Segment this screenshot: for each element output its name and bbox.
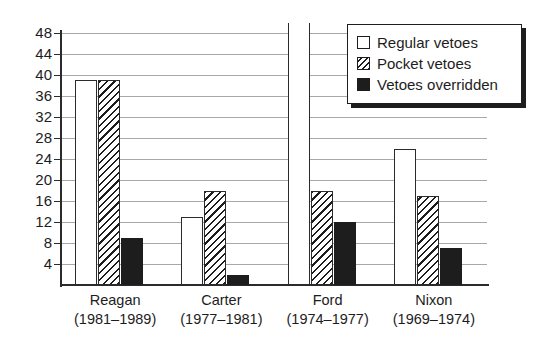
bar-regular-vetoes-carter [181,217,203,285]
x-axis-category-ford: Ford(1974–1977) [275,291,381,329]
gridline [62,180,487,181]
y-axis-tick [54,159,62,160]
legend-item-vetoes-overridden: Vetoes overridden [357,74,513,95]
bar-vetoes-overridden-reagan [121,238,143,285]
y-axis-tick-label: 48 [6,25,52,40]
legend-item-label: Regular vetoes [377,35,478,50]
y-axis-tick-label: 8 [6,235,52,250]
hatched-square-icon [357,57,370,70]
y-axis-tick-label: 36 [6,88,52,103]
y-axis-tick-label: 4 [6,256,52,271]
bar-regular-vetoes-nixon [394,149,416,286]
x-axis-category-carter: Carter(1977–1981) [168,291,274,329]
category-years: (1981–1989) [62,310,168,329]
y-axis-tick [54,96,62,97]
x-axis-category-reagan: Reagan(1981–1989) [62,291,168,329]
y-axis-tick [54,264,62,265]
bar-pocket-vetoes-nixon [417,196,439,285]
y-axis-tick [54,180,62,181]
bar-regular-vetoes-reagan [75,80,97,285]
gridline [62,117,487,118]
y-axis-tick [54,54,62,55]
y-axis-tick-label: 20 [6,172,52,187]
y-axis-tick-label: 32 [6,109,52,124]
bar-vetoes-overridden-ford [334,222,356,285]
legend-item-label: Vetoes overridden [377,77,498,92]
y-axis-tick [54,75,62,76]
category-years: (1977–1981) [168,310,274,329]
bar-vetoes-overridden-carter [227,275,249,286]
gridline [62,159,487,160]
legend-item-pocket-vetoes: Pocket vetoes [357,53,513,74]
category-name: Nixon [381,291,487,310]
y-axis-tick-label: 28 [6,130,52,145]
category-years: (1974–1977) [275,310,381,329]
category-years: (1969–1974) [381,310,487,329]
bar-pocket-vetoes-ford [311,191,333,286]
y-axis-tick [54,138,62,139]
y-axis-tick [54,243,62,244]
x-axis-category-nixon: Nixon(1969–1974) [381,291,487,329]
category-name: Ford [275,291,381,310]
y-axis-tick [54,222,62,223]
y-axis-tick-label: 40 [6,67,52,82]
y-axis-tick [54,117,62,118]
bar-pocket-vetoes-reagan [98,80,120,285]
y-axis-tick-label: 24 [6,151,52,166]
gridline [62,138,487,139]
legend-item-label: Pocket vetoes [377,56,471,71]
y-axis-tick-label: 12 [6,214,52,229]
chart-figure: 4844403632282420161284 Reagan(1981–1989)… [0,0,540,342]
y-axis-tick-label: 16 [6,193,52,208]
category-name: Reagan [62,291,168,310]
black-square-icon [357,78,370,91]
white-square-icon [357,36,370,49]
bar-regular-vetoes-ford [288,23,310,285]
y-axis-tick [54,33,62,34]
bar-vetoes-overridden-nixon [440,248,462,285]
legend-item-regular-vetoes: Regular vetoes [357,32,513,53]
y-axis-tick-labels: 4844403632282420161284 [0,0,52,342]
y-axis-tick [54,201,62,202]
category-name: Carter [168,291,274,310]
bar-pocket-vetoes-carter [204,191,226,286]
chart-legend: Regular vetoes Pocket vetoes Vetoes over… [347,24,522,104]
y-axis-tick-label: 44 [6,46,52,61]
